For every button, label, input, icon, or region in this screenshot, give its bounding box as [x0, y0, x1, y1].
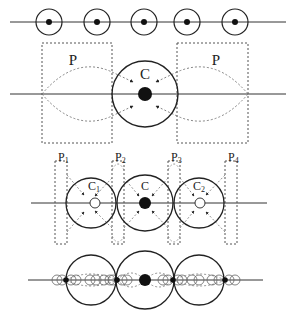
- panel-3: P1 P2 P3 P4 C1 C C2: [31, 150, 267, 244]
- panel-4: [28, 251, 263, 309]
- diagram-canvas: P P C: [0, 0, 293, 316]
- label-p4: P4: [228, 150, 239, 165]
- panel-1: [10, 9, 286, 35]
- label-p-right: P: [212, 52, 220, 68]
- panel-2: P P C: [10, 43, 286, 143]
- label-c-center: C: [141, 179, 149, 193]
- label-c2: C2: [193, 179, 205, 194]
- label-p2: P2: [115, 150, 126, 165]
- label-p1: P1: [58, 150, 69, 165]
- label-c: C: [140, 66, 150, 82]
- label-p3: P3: [171, 150, 182, 165]
- label-c1: C1: [88, 179, 100, 194]
- label-p-left: P: [69, 52, 77, 68]
